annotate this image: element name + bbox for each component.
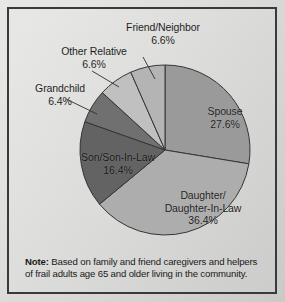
slice-label-other-relative-name: Other Relative (61, 45, 127, 57)
slice-label-friend-neighbor-name: Friend/Neighbor (126, 21, 200, 33)
slice-label-grandchild: Grandchild 6.4% (21, 82, 99, 107)
figure-border: Friend/Neighbor 6.6% Other Relative 6.6%… (7, 7, 277, 294)
slice-label-other-relative: Other Relative 6.6% (39, 45, 149, 70)
figure-note-text: Based on family and friend caregivers an… (25, 256, 257, 279)
figure-note: Note: Based on family and friend caregiv… (25, 256, 261, 279)
slice-label-daughter: Daughter/ Daughter-In-Law 36.4% (151, 189, 255, 227)
slice-label-spouse: Spouse 27.6% (189, 105, 261, 130)
slice-label-grandchild-pct: 6.4% (21, 95, 99, 108)
slice-label-son-name: Son/Son-In-Law (81, 151, 155, 163)
slice-label-spouse-pct: 27.6% (189, 118, 261, 131)
slice-label-son-pct: 16.4% (67, 164, 169, 177)
slice-label-daughter-name-line2: Daughter-In-Law (151, 202, 255, 215)
slice-label-spouse-name: Spouse (207, 105, 242, 117)
chart-plot-area: Friend/Neighbor 6.6% Other Relative 6.6%… (9, 9, 275, 292)
slice-label-son: Son/Son-In-Law 16.4% (67, 151, 169, 176)
slice-label-friend-neighbor: Friend/Neighbor 6.6% (101, 21, 225, 46)
slice-label-other-relative-pct: 6.6% (39, 58, 149, 71)
slice-label-grandchild-name: Grandchild (35, 82, 85, 94)
figure-note-prefix: Note: (25, 256, 49, 267)
slice-label-daughter-pct: 36.4% (151, 214, 255, 227)
slice-label-daughter-name-line1: Daughter/ (180, 189, 225, 201)
pie-chart-figure: Friend/Neighbor 6.6% Other Relative 6.6%… (0, 0, 285, 302)
